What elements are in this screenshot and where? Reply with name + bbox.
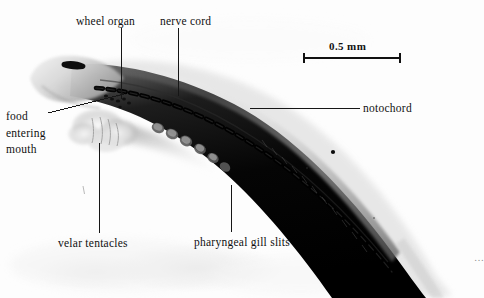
label-wheel-organ: wheel organ xyxy=(76,14,135,29)
label-velar-tentacles: velar tentacles xyxy=(58,236,128,251)
label-food-entering-mouth: food entering mouth xyxy=(6,108,66,158)
scale-bar-label: 0.5 mm xyxy=(329,40,366,52)
scale-bar-rule xyxy=(304,53,400,63)
label-nerve-cord: nerve cord xyxy=(160,14,211,29)
label-notochord: notochord xyxy=(363,101,412,116)
figure-lancelet-micrograph: 0.5 mm wheel organ nerve cord notochord … xyxy=(0,0,484,298)
clipped-edge-caption: … xyxy=(474,252,484,263)
annotation-leaders xyxy=(0,0,484,298)
label-pharyngeal-gill-slits: pharyngeal gill slits xyxy=(194,235,290,250)
